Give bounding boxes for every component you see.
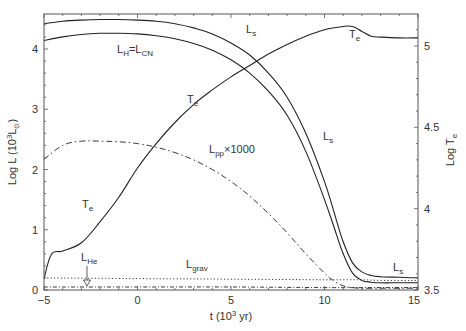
x-tick-label: 0 [134, 294, 140, 306]
background [0, 0, 466, 331]
y-left-tick-label: 3 [32, 103, 38, 115]
x-tick-label: −5 [38, 294, 51, 306]
y-right-tick-label: 5 [424, 40, 430, 52]
y-left-tick-label: 4 [32, 43, 38, 55]
chart: −5 0 5 10 15 0 1 2 3 4 3.5 4 4.5 5 t (10… [0, 0, 466, 331]
y-right-tick-label: 4 [424, 203, 430, 215]
y-left-tick-label: 2 [32, 164, 38, 176]
x-tick-label: 5 [228, 294, 234, 306]
y-left-tick-label: 1 [32, 224, 38, 236]
y-right-tick-label: 3.5 [424, 284, 439, 296]
x-tick-label: 10 [318, 294, 330, 306]
y-left-tick-label: 0 [32, 284, 38, 296]
x-axis-label: t (103 yr) [210, 309, 252, 322]
y-right-tick-label: 4.5 [424, 121, 439, 133]
x-tick-label: 15 [408, 294, 420, 306]
y-left-axis-label: Log L (103L⊙) [5, 119, 20, 185]
